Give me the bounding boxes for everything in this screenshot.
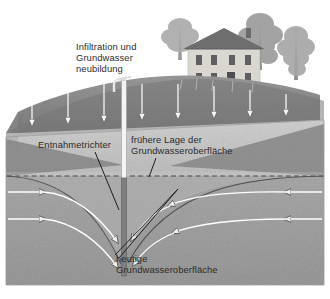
- label-infiltration-und-grundwasserneubildung: Infiltration und Grundwasser neubildung: [76, 41, 137, 75]
- label-entnahmetrichter: Entnahmetrichter: [38, 139, 111, 150]
- well-casing-upper: [122, 80, 127, 178]
- groundwater-cone-of-depression-figure: Infiltration und Grundwasser neubildung …: [0, 0, 330, 299]
- house-chimney: [246, 28, 251, 38]
- label-fruehere-lage-der-grundwasseroberflaeche: frühere Lage der Grundwasseroberfläche: [131, 134, 233, 156]
- label-heutige-grundwasseroberflaeche: heutige Grundwasseroberfläche: [116, 253, 218, 275]
